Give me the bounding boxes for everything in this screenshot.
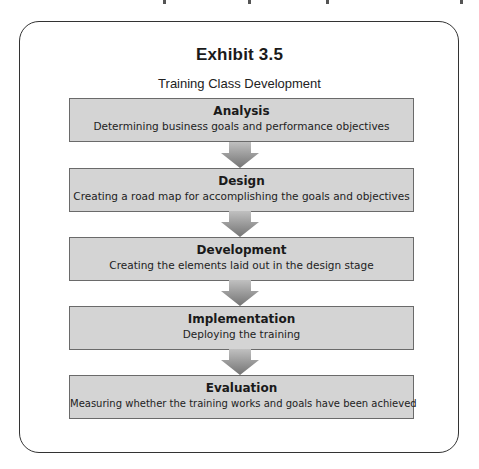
down-arrow-icon	[220, 142, 260, 168]
step-box-analysis: Analysis Determining business goals and …	[69, 98, 414, 142]
down-arrow-icon	[220, 349, 260, 375]
step-description: Determining business goals and performan…	[70, 119, 413, 134]
exhibit-title: Exhibit 3.5	[0, 45, 479, 65]
step-box-implementation: Implementation Deploying the training	[69, 306, 414, 350]
step-box-design: Design Creating a road map for accomplis…	[69, 168, 414, 212]
step-description: Measuring whether the training works and…	[70, 396, 413, 411]
step-box-development: Development Creating the elements laid o…	[69, 237, 414, 281]
step-name: Development	[70, 243, 413, 258]
step-name: Design	[70, 174, 413, 189]
step-description: Creating a road map for accomplishing th…	[70, 189, 413, 204]
down-arrow-icon	[220, 211, 260, 237]
cropped-text-fragment	[0, 0, 479, 4]
down-arrow-icon	[220, 280, 260, 306]
step-name: Implementation	[70, 312, 413, 327]
exhibit-subtitle: Training Class Development	[0, 76, 479, 91]
step-description: Creating the elements laid out in the de…	[70, 258, 413, 273]
step-name: Evaluation	[70, 381, 413, 396]
step-box-evaluation: Evaluation Measuring whether the trainin…	[69, 375, 414, 419]
step-name: Analysis	[70, 104, 413, 119]
step-description: Deploying the training	[70, 327, 413, 342]
